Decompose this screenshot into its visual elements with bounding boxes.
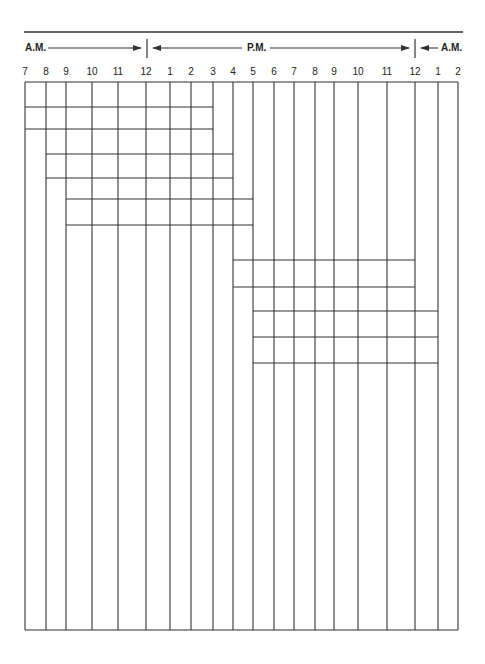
hour-label: 9 bbox=[63, 66, 69, 77]
am-left-label: A.M. bbox=[25, 42, 46, 53]
hour-label: 8 bbox=[312, 66, 318, 77]
hour-label: 2 bbox=[455, 66, 461, 77]
hour-label: 4 bbox=[230, 66, 236, 77]
hour-label: 5 bbox=[250, 66, 256, 77]
hour-label: 2 bbox=[188, 66, 194, 77]
hour-label: 11 bbox=[113, 66, 123, 77]
hour-label: 8 bbox=[43, 66, 49, 77]
arrow-left-icon bbox=[152, 45, 161, 51]
hour-label: 11 bbox=[382, 66, 392, 77]
hour-label: 7 bbox=[22, 66, 28, 77]
hour-label: 3 bbox=[210, 66, 216, 77]
hour-label: 10 bbox=[352, 66, 363, 77]
hour-label: 12 bbox=[140, 66, 151, 77]
time-grid-diagram bbox=[0, 0, 485, 664]
hour-label: 12 bbox=[409, 66, 420, 77]
hour-label: 1 bbox=[167, 66, 173, 77]
arrow-left-icon bbox=[420, 45, 429, 51]
arrow-right-icon bbox=[133, 45, 142, 51]
pm-label: P.M. bbox=[247, 42, 266, 53]
hour-label: 1 bbox=[435, 66, 441, 77]
hour-label: 9 bbox=[331, 66, 337, 77]
arrow-right-icon bbox=[401, 45, 410, 51]
hour-label: 10 bbox=[86, 66, 97, 77]
hour-label: 7 bbox=[291, 66, 297, 77]
am-right-label: A.M. bbox=[441, 42, 462, 53]
hour-label: 6 bbox=[271, 66, 277, 77]
